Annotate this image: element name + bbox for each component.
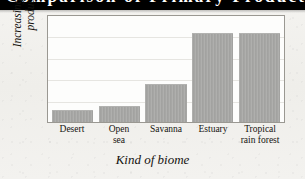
figure-container: Comparison of Primary Productivity Incre… (0, 0, 305, 179)
x-tick-tropical-rain-forest: Tropical rain forest (239, 124, 281, 150)
bar-slot (99, 16, 140, 122)
x-tick-savanna: Savanna (145, 124, 187, 150)
x-tick-open-sea: Open sea (98, 124, 140, 150)
bar-slot (192, 16, 233, 122)
bar-series (48, 16, 284, 122)
bar-tropical-rain-forest (239, 33, 280, 122)
bar-slot (239, 16, 280, 122)
header-band-clipped-text: Comparison of Primary Productivity (6, 0, 305, 7)
bar-estuary (192, 33, 233, 122)
y-axis-label: Increasing primary productivity (2, 0, 46, 58)
bar-open-sea (99, 106, 140, 122)
plot-area (47, 15, 285, 123)
x-tick-desert: Desert (51, 124, 93, 150)
x-axis-label: Kind of biome (0, 152, 305, 168)
x-axis-tick-labels: Desert Open sea Savanna Estuary Tropical… (47, 124, 285, 150)
bar-desert (52, 110, 93, 122)
bar-savanna (145, 84, 186, 122)
bar-slot (52, 16, 93, 122)
bar-slot (145, 16, 186, 122)
x-tick-estuary: Estuary (192, 124, 234, 150)
